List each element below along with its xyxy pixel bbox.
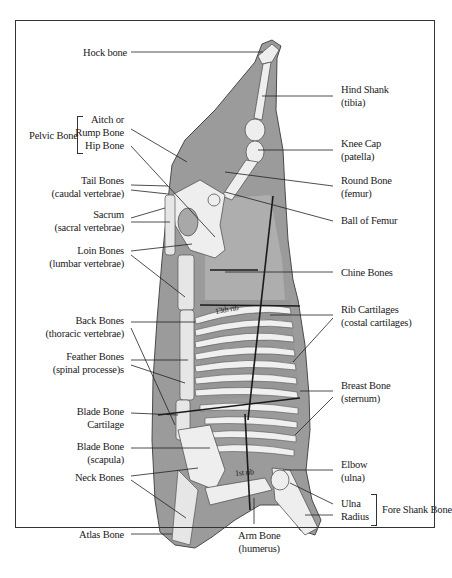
- label-sacrum: Sacrum (sacral vertebrae): [54, 208, 124, 234]
- label-breast-bone: Breast Bone (sternum): [341, 379, 390, 405]
- label-neck-bones: Neck Bones: [75, 471, 124, 484]
- label-hip-bone: Hip Bone: [85, 139, 124, 152]
- label-arm-bone: Arm Bone (humerus): [238, 529, 280, 555]
- label-hind-shank: Hind Shank (tibia): [341, 83, 389, 109]
- label-rib-cartilages: Rib Cartilages (costal cartilages): [341, 303, 412, 329]
- label-feather-bones: Feather Bones (spinal processe)s: [53, 350, 124, 376]
- label-knee-cap: Knee Cap (patella): [341, 137, 381, 163]
- fore-shank-bracket: [371, 494, 377, 526]
- label-atlas-bone: Atlas Bone: [79, 528, 124, 541]
- label-aitch-rump-bone: Aitch or Rump Bone: [75, 113, 124, 139]
- label-chine-bones: Chine Bones: [341, 266, 393, 279]
- label-pelvic-bone: Pelvic Bone: [29, 129, 78, 142]
- label-elbow: Elbow (ulna): [341, 458, 367, 484]
- annotation-1st-rib: 1st rib: [235, 465, 255, 479]
- label-blade-bone: Blade Bone (scapula): [77, 440, 124, 466]
- label-ulna: Ulna: [341, 497, 361, 510]
- label-fore-shank-bone: Fore Shank Bone: [382, 503, 452, 516]
- label-radius: Radius: [341, 510, 369, 523]
- label-loin-bones: Loin Bones (lumbar vertebrae): [49, 244, 124, 270]
- label-ball-of-femur: Ball of Femur: [341, 214, 397, 227]
- label-tail-bones: Tail Bones (caudal vertebrae): [52, 174, 124, 200]
- label-round-bone: Round Bone (femur): [341, 174, 392, 200]
- label-back-bones: Back Bones (thoracic vertebrae): [46, 314, 124, 340]
- label-blade-bone-cartilage: Blade Bone Cartilage: [77, 405, 124, 431]
- label-hock-bone: Hock bone: [83, 46, 127, 59]
